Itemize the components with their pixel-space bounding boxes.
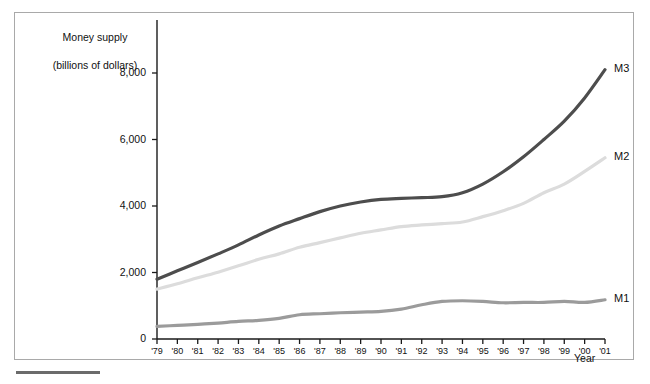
series-line-m3 bbox=[157, 70, 605, 279]
y-tick-label: 8,000 bbox=[100, 66, 146, 78]
y-tick-label: 6,000 bbox=[100, 133, 146, 145]
series-line-m1 bbox=[157, 300, 605, 327]
y-tick-label: 2,000 bbox=[100, 266, 146, 278]
y-tick-label: 4,000 bbox=[100, 199, 146, 211]
series-label-m1: M1 bbox=[614, 292, 629, 304]
plot-area bbox=[0, 0, 650, 384]
series-label-m3: M3 bbox=[614, 62, 629, 74]
x-tick-label: '01 bbox=[593, 346, 617, 356]
series-label-m2: M2 bbox=[614, 150, 629, 162]
y-tick-label: 0 bbox=[100, 332, 146, 344]
series-line-m2 bbox=[157, 158, 605, 289]
axes-group bbox=[152, 20, 605, 344]
chart-figure: Money supply (billions of dollars) Year … bbox=[0, 0, 650, 384]
series-group bbox=[157, 70, 605, 327]
